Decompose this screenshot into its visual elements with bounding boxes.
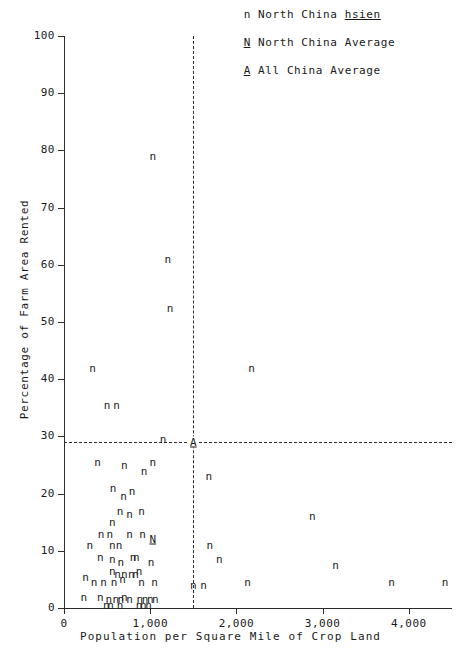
x-tick-mark-3,000 <box>323 608 324 614</box>
data-point-hsien: n <box>117 505 124 516</box>
data-point-hsien: n <box>160 434 167 445</box>
data-point-hsien: n <box>100 577 107 588</box>
y-tick-label: 90 <box>41 86 55 99</box>
data-point-hsien: n <box>98 528 105 539</box>
data-point-hsien: n <box>126 594 133 605</box>
data-point-hsien: n <box>81 591 88 602</box>
x-tick-label-4,000: 4,000 <box>391 617 427 630</box>
data-point-hsien: n <box>116 540 123 551</box>
data-point-hsien: n <box>141 465 148 476</box>
data-point-hsien: n <box>89 362 96 373</box>
y-tick-mark <box>58 379 64 380</box>
chart-legend: n North China hsien N North China Averag… <box>236 8 454 92</box>
data-point-hsien: n <box>216 554 223 565</box>
data-point-hsien: n <box>109 517 116 528</box>
data-point-hsien: n <box>138 505 145 516</box>
data-point-hsien: n <box>309 511 316 522</box>
data-point-hsien: n <box>151 577 158 588</box>
legend-label-all-china-average: All China Average <box>258 64 381 77</box>
data-point-hsien: n <box>109 554 116 565</box>
y-tick-mark <box>58 494 64 495</box>
data-point-hsien: n <box>244 577 251 588</box>
y-tick-mark <box>58 36 64 37</box>
data-point-hsien: n <box>107 599 114 610</box>
data-point-hsien: n <box>129 485 136 496</box>
all-china-average-vertical-line <box>193 36 194 608</box>
data-point-hsien: n <box>94 457 101 468</box>
average-marker-N: N <box>148 534 157 545</box>
y-tick-label: 50 <box>41 315 55 328</box>
data-point-hsien: n <box>206 540 213 551</box>
data-point-hsien: n <box>120 491 127 502</box>
data-point-hsien: n <box>117 599 124 610</box>
data-point-hsien: n <box>91 577 98 588</box>
data-point-hsien: n <box>388 577 395 588</box>
data-point-hsien: n <box>82 571 89 582</box>
scatter-chart: n North China hsien N North China Averag… <box>0 0 461 655</box>
y-tick-mark <box>58 208 64 209</box>
data-point-hsien: n <box>136 565 143 576</box>
data-point-hsien: n <box>97 551 104 562</box>
y-tick-mark <box>58 265 64 266</box>
data-point-hsien: n <box>119 574 126 585</box>
data-point-hsien: n <box>206 471 213 482</box>
legend-marker-n: n <box>236 9 258 20</box>
data-point-hsien: n <box>111 577 118 588</box>
data-point-hsien: n <box>104 399 111 410</box>
legend-text-hsien-em: hsien <box>345 8 381 21</box>
y-tick-label: 80 <box>41 143 55 156</box>
x-tick-label-2,000: 2,000 <box>219 617 255 630</box>
y-axis-title: Percentage of Farm Area Rented <box>18 200 31 420</box>
legend-label-north-china-average: North China Average <box>258 36 395 49</box>
y-tick-label: 0 <box>48 601 55 614</box>
data-point-hsien: n <box>138 577 145 588</box>
data-point-hsien: n <box>106 528 113 539</box>
x-axis-title: Population per Square Mile of Crop Land <box>0 630 461 643</box>
y-tick-label: 10 <box>41 544 55 557</box>
data-point-hsien: n <box>248 362 255 373</box>
data-point-hsien: n <box>87 540 94 551</box>
data-point-hsien: n <box>133 551 140 562</box>
data-point-hsien: n <box>149 151 156 162</box>
y-tick-mark <box>58 93 64 94</box>
data-point-hsien: n <box>200 580 207 591</box>
data-point-hsien: n <box>145 599 152 610</box>
data-point-hsien: n <box>139 528 146 539</box>
data-point-hsien: n <box>118 557 125 568</box>
y-tick-label: 100 <box>34 29 55 42</box>
legend-label-hsien: North China hsien <box>258 8 381 21</box>
data-point-hsien: n <box>332 560 339 571</box>
x-tick-mark-4,000 <box>409 608 410 614</box>
x-tick-label-3,000: 3,000 <box>305 617 341 630</box>
y-tick-mark <box>58 436 64 437</box>
y-axis-line <box>64 36 65 608</box>
data-point-hsien: n <box>126 508 133 519</box>
y-tick-label: 40 <box>41 372 55 385</box>
y-tick-mark <box>58 150 64 151</box>
data-point-hsien: n <box>442 577 449 588</box>
x-tick-mark-0 <box>64 608 65 614</box>
data-point-hsien: n <box>152 594 159 605</box>
all-china-average-horizontal-line <box>64 442 452 443</box>
y-tick-label: 70 <box>41 201 55 214</box>
x-tick-mark-2,000 <box>236 608 237 614</box>
data-point-hsien: n <box>109 540 116 551</box>
data-point-hsien: n <box>165 254 172 265</box>
x-tick-label-1,000: 1,000 <box>132 617 168 630</box>
y-tick-label: 20 <box>41 487 55 500</box>
y-tick-label: 60 <box>41 258 55 271</box>
legend-item-all-china-average: A All China Average <box>236 64 454 92</box>
data-point-hsien: n <box>121 460 128 471</box>
data-point-hsien: n <box>167 302 174 313</box>
legend-item-north-china-average: N North China Average <box>236 36 454 64</box>
y-tick-label: 30 <box>41 429 55 442</box>
y-tick-mark <box>58 322 64 323</box>
data-point-hsien: n <box>148 557 155 568</box>
legend-marker-N: N <box>236 37 258 48</box>
y-tick-mark <box>58 551 64 552</box>
legend-text-hsien-pre: North China <box>258 8 345 21</box>
data-point-hsien: n <box>149 457 156 468</box>
legend-item-hsien: n North China hsien <box>236 8 454 36</box>
data-point-hsien: n <box>110 482 117 493</box>
average-marker-A: A <box>189 437 198 448</box>
